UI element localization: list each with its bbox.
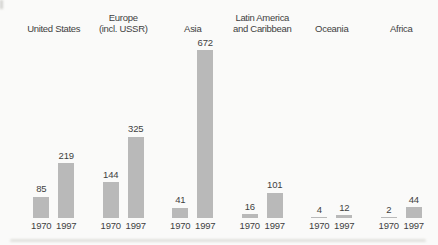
value-label: 16 bbox=[230, 202, 270, 212]
value-label: 144 bbox=[91, 170, 131, 180]
bar-1970 bbox=[33, 197, 49, 218]
bar-1970 bbox=[103, 182, 119, 218]
bar-1970 bbox=[172, 208, 188, 218]
group-united-states: United States8519702191997 bbox=[19, 0, 89, 245]
bar-1997 bbox=[267, 193, 283, 218]
value-label: 219 bbox=[46, 151, 86, 161]
bar-1997 bbox=[128, 137, 144, 218]
value-label: 325 bbox=[116, 124, 156, 134]
bar-1970 bbox=[242, 214, 258, 218]
value-label: 44 bbox=[394, 195, 434, 205]
bar-1970 bbox=[381, 217, 397, 218]
year-tick-1997: 1997 bbox=[329, 221, 359, 231]
group-oceania: Oceania41970121997 bbox=[297, 0, 367, 245]
value-label: 101 bbox=[255, 180, 295, 190]
bar-1997 bbox=[197, 50, 213, 218]
value-label: 41 bbox=[160, 195, 200, 205]
bar-1997 bbox=[58, 163, 74, 218]
bar-1997 bbox=[406, 207, 422, 218]
year-tick-1997: 1997 bbox=[121, 221, 151, 231]
bar-chart: United States8519702191997Europe (incl. … bbox=[0, 0, 438, 245]
group-europe-incl-ussr: Europe (incl. USSR)14419703251997 bbox=[89, 0, 159, 245]
value-label: 2 bbox=[369, 205, 409, 215]
year-tick-1997: 1997 bbox=[399, 221, 429, 231]
value-label: 672 bbox=[185, 38, 225, 48]
year-tick-1997: 1997 bbox=[51, 221, 81, 231]
value-label: 12 bbox=[324, 203, 364, 213]
year-tick-1997: 1997 bbox=[260, 221, 290, 231]
year-tick-1997: 1997 bbox=[190, 221, 220, 231]
category-label: Africa bbox=[357, 0, 438, 34]
bar-1997 bbox=[336, 215, 352, 218]
bar-1970 bbox=[311, 217, 327, 218]
value-label: 85 bbox=[21, 184, 61, 194]
group-africa: Africa21970441997 bbox=[367, 0, 437, 245]
group-asia: Asia4119706721997 bbox=[158, 0, 228, 245]
group-latin-america-and-caribbean: Latin America and Caribbean1619701011997 bbox=[228, 0, 298, 245]
scan-artifact bbox=[0, 0, 3, 9]
